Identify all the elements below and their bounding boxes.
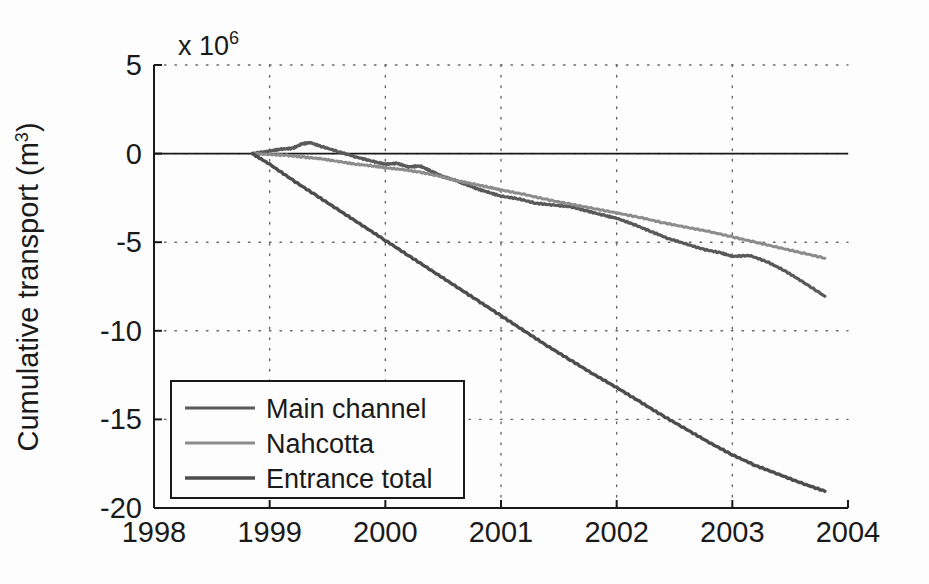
y-axis-title: Cumulative transport (m3) [12,122,44,451]
y-axis-title-tail: ) [12,122,44,132]
y-exponent-label: x 106 [178,28,239,61]
svg-text:Cumulative transport (m3): Cumulative transport (m3) [12,122,44,451]
y-tick-label: 0 [126,138,142,170]
exponent-superscript: 6 [229,28,239,48]
y-axis-title-superscript: 3 [12,132,32,142]
y-axis-title-text: Cumulative transport (m [12,142,44,451]
svg-text:x 106: x 106 [178,28,239,61]
x-tick-label: 2004 [816,516,881,548]
figure-canvas: 1998199920002001200220032004 50-5-10-15-… [0,0,929,584]
x-tick-label: 2003 [700,516,765,548]
x-tick-label: 2001 [469,516,534,548]
x-tick-label: 2000 [353,516,418,548]
legend-label-nahcotta[interactable]: Nahcotta [266,429,375,459]
exponent-base: x 10 [178,31,229,61]
legend-label-main-channel[interactable]: Main channel [266,394,427,424]
y-tick-label: -5 [116,226,142,258]
x-tick-label: 1999 [237,516,302,548]
x-axis-tick-labels: 1998199920002001200220032004 [122,516,881,548]
y-tick-label: -20 [100,492,142,524]
legend-label-entrance-total[interactable]: Entrance total [266,464,433,494]
series-line-nahcotta [252,153,825,258]
y-tick-label: -15 [100,403,142,435]
series-line-main-channel [252,142,825,296]
legend[interactable]: Main channelNahcottaEntrance total [171,381,464,498]
y-tick-label: 5 [126,49,142,81]
x-tick-label: 2002 [584,516,649,548]
y-axis-tick-labels: 50-5-10-15-20 [100,49,142,524]
y-tick-label: -10 [100,315,142,347]
chart-svg: 1998199920002001200220032004 50-5-10-15-… [0,0,929,584]
